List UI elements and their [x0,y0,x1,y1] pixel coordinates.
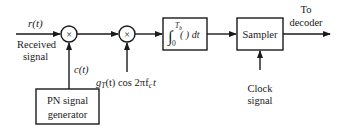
pn-generator-label-line1: PN signal [47,95,88,106]
received-label-line2: signal [23,51,48,62]
clock-label-line2: signal [247,95,272,106]
multiply-icon: × [124,29,130,40]
mixer-1: × [61,26,77,42]
output-label-line2: decoder [289,17,323,28]
multiply-icon: × [66,29,72,40]
received-label-line1: Received [17,39,57,50]
integral-body: ( ) dt [180,29,200,41]
integrator-block: ∫ Tb 0 ( ) dt [163,18,207,50]
output-label-line1: To [301,4,312,15]
sampler-label: Sampler [243,29,278,40]
sampler-block: Sampler [237,18,283,50]
integral-lower-limit: 0 [172,39,176,48]
spreading-code-label: c(t) [74,64,89,76]
mixer-2: × [119,26,135,42]
pn-generator-block: PN signal generator [36,89,99,124]
clock-label-line1: Clock [247,83,273,94]
dsss-receiver-diagram: r(t) Received signal × × ∫ Tb 0 ( ) dt S… [0,0,339,137]
carrier-label: gT(t) cos 2πfct [96,77,157,90]
input-signal-label: r(t) [28,17,43,30]
pn-generator-label-line2: generator [48,109,88,120]
